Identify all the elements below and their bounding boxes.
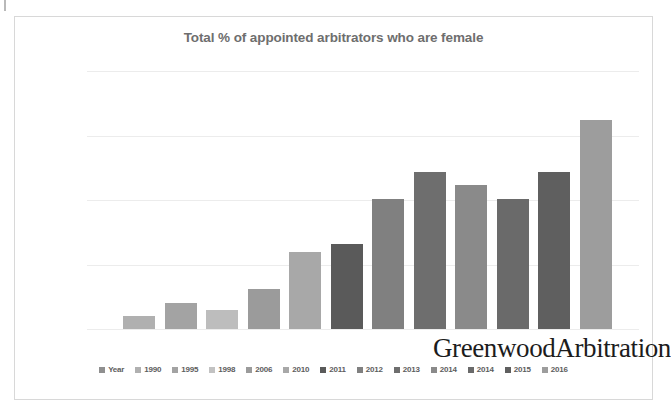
bar-fill: [372, 199, 404, 329]
legend-swatch-icon: [99, 367, 105, 373]
legend-swatch-icon: [468, 367, 474, 373]
bar-fill: [331, 244, 363, 329]
legend-label: 2006: [255, 365, 272, 374]
legend-label: 2011: [329, 365, 346, 374]
bar-2014-8: [455, 185, 487, 329]
legend-swatch-icon: [357, 367, 363, 373]
bar-1995-1: [165, 303, 197, 329]
legend-swatch-icon: [505, 367, 511, 373]
legend-swatch-icon: [394, 367, 400, 373]
legend-item-2014-9[interactable]: 2014: [431, 365, 457, 374]
legend-label: 2014: [477, 365, 494, 374]
legend-swatch-icon: [283, 367, 289, 373]
bar-fill: [165, 303, 197, 329]
bar-fill: [455, 185, 487, 329]
legend-label: 2013: [403, 365, 420, 374]
legend-item-2012-7[interactable]: 2012: [357, 365, 383, 374]
bars-group: [87, 55, 639, 351]
bar-2012-6: [372, 199, 404, 329]
scan-artifact-mark: [4, 0, 6, 11]
bar-2015-10: [538, 172, 570, 329]
bar-2006-3: [248, 289, 280, 329]
bar-fill: [580, 120, 612, 329]
legend-item-1990-1[interactable]: 1990: [135, 365, 161, 374]
legend-swatch-icon: [246, 367, 252, 373]
legend-item-2011-6[interactable]: 2011: [320, 365, 346, 374]
bar-2014-9: [497, 199, 529, 329]
legend-swatch-icon: [135, 367, 141, 373]
legend-item-year-0[interactable]: Year: [99, 365, 124, 374]
legend-item-2014-10[interactable]: 2014: [468, 365, 494, 374]
bar-fill: [206, 310, 238, 329]
legend-label: 2014: [440, 365, 457, 374]
legend-label: 1998: [218, 365, 235, 374]
legend-label: 2015: [514, 365, 531, 374]
bar-fill: [123, 316, 155, 329]
legend-item-2013-8[interactable]: 2013: [394, 365, 420, 374]
legend-item-1998-3[interactable]: 1998: [209, 365, 235, 374]
bar-2011-5: [331, 244, 363, 329]
bar-fill: [414, 172, 446, 329]
chart-figure: Total % of appointed arbitrators who are…: [14, 16, 653, 400]
legend-item-2010-5[interactable]: 2010: [283, 365, 309, 374]
bar-1998-2: [206, 310, 238, 329]
legend-swatch-icon: [431, 367, 437, 373]
legend-label: 1990: [144, 365, 161, 374]
legend-swatch-icon: [542, 367, 548, 373]
bar-1990-0: [123, 316, 155, 329]
bar-fill: [289, 252, 321, 329]
legend-label: 2016: [551, 365, 568, 374]
legend-label: 2010: [292, 365, 309, 374]
bar-fill: [248, 289, 280, 329]
legend-item-2006-4[interactable]: 2006: [246, 365, 272, 374]
legend-label: 1995: [181, 365, 198, 374]
legend-item-2016-12[interactable]: 2016: [542, 365, 568, 374]
bar-2010-4: [289, 252, 321, 329]
legend-label: Year: [108, 365, 124, 374]
chart-legend: Year199019951998200620102011201220132014…: [15, 365, 652, 374]
bar-2016-11: [580, 120, 612, 329]
plot-area: 0%5%10%15%20%: [87, 55, 639, 351]
legend-swatch-icon: [172, 367, 178, 373]
legend-item-1995-2[interactable]: 1995: [172, 365, 198, 374]
legend-swatch-icon: [209, 367, 215, 373]
legend-item-2015-11[interactable]: 2015: [505, 365, 531, 374]
bar-fill: [538, 172, 570, 329]
watermark-greenwood-arbitration: GreenwoodArbitration: [433, 333, 671, 364]
bar-2013-7: [414, 172, 446, 329]
legend-label: 2012: [366, 365, 383, 374]
chart-title: Total % of appointed arbitrators who are…: [15, 30, 652, 45]
bar-fill: [497, 199, 529, 329]
legend-swatch-icon: [320, 367, 326, 373]
